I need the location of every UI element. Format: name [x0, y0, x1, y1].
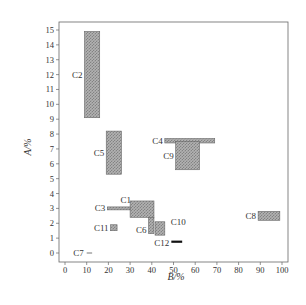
series-label-c2: C2 — [72, 70, 83, 80]
x-tick-label: 90 — [256, 265, 265, 275]
y-tick-label: 5 — [50, 174, 54, 184]
range-chart: 0102030405060708090100 01234567891011121… — [0, 0, 306, 305]
y-tick-label: 11 — [46, 84, 54, 94]
y-tick-label: 15 — [46, 25, 55, 35]
x-tick-label: 100 — [276, 265, 289, 275]
x-tick-label: 10 — [82, 265, 91, 275]
range-rect-c1 — [130, 201, 154, 217]
range-rect-c5 — [106, 131, 121, 174]
series-label-c10: C10 — [171, 217, 187, 227]
series-label-c8: C8 — [246, 211, 257, 221]
y-tick-label: 8 — [50, 129, 54, 139]
x-tick-label: 20 — [104, 265, 113, 275]
y-tick-label: 4 — [50, 189, 55, 199]
y-tick-label: 10 — [46, 99, 55, 109]
series-label-c7: C7 — [73, 248, 84, 258]
series-label-c4: C4 — [152, 136, 163, 146]
range-rect-c9 — [176, 142, 200, 170]
y-tick-label: 1 — [50, 233, 54, 243]
series-label-c1: C1 — [121, 195, 132, 205]
series-label-c3: C3 — [95, 203, 106, 213]
series-label-c12: C12 — [154, 238, 169, 248]
series-label-c6: C6 — [136, 225, 147, 235]
x-tick-label: 60 — [191, 265, 200, 275]
y-tick-label: 12 — [46, 70, 55, 80]
series-label-c9: C9 — [163, 151, 174, 161]
y-tick-label: 14 — [46, 40, 55, 50]
y-axis-ticks: 0123456789101112131415 — [46, 25, 60, 258]
range-rect-c10 — [155, 222, 165, 235]
x-tick-label: 70 — [213, 265, 222, 275]
x-tick-label: 80 — [234, 265, 243, 275]
x-tick-label: 40 — [148, 265, 157, 275]
range-rect-c8 — [258, 211, 280, 220]
chart-container: 0102030405060708090100 01234567891011121… — [0, 0, 306, 305]
range-rect-c3 — [107, 207, 130, 210]
y-tick-label: 13 — [46, 55, 55, 65]
x-axis-label: B/% — [167, 271, 184, 282]
y-tick-label: 3 — [50, 203, 54, 213]
series-label-c5: C5 — [94, 148, 105, 158]
range-rect-c2 — [85, 31, 100, 117]
y-tick-label: 0 — [50, 248, 54, 258]
y-tick-label: 2 — [50, 218, 54, 228]
y-tick-label: 9 — [50, 114, 54, 124]
y-axis-label: A/% — [22, 138, 33, 156]
y-tick-label: 7 — [50, 144, 54, 154]
range-rect-c12 — [171, 241, 182, 243]
x-tick-label: 30 — [126, 265, 135, 275]
range-rect-c6 — [149, 217, 154, 233]
y-tick-label: 6 — [50, 159, 54, 169]
range-rect-c11 — [111, 225, 118, 231]
series-label-c11: C11 — [94, 223, 109, 233]
x-tick-label: 0 — [63, 265, 67, 275]
